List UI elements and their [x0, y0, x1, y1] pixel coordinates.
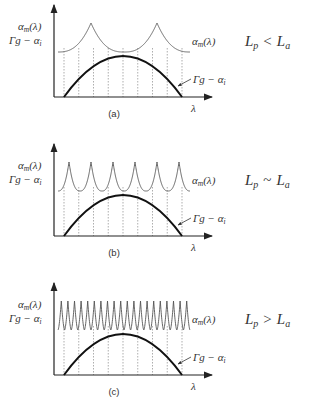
mode-loss-curve: [58, 23, 190, 52]
x-axis-label-lambda: λ: [190, 241, 196, 253]
gain-pointer-arrow: [178, 218, 191, 225]
y-axis-label-gain: Γg − αi: [8, 312, 42, 326]
gain-curve-label: Γg − αi: [192, 351, 226, 365]
panel-a: αm(λ)Γg − αiαm(λ)Γg − αiλ(a)Lp<La: [8, 5, 290, 119]
length-condition: Lp<La: [244, 33, 290, 51]
panel-caption: (c): [108, 386, 119, 397]
panel-b: αm(λ)Γg − αiαm(λ)Γg − αiλ(b)Lp~La: [8, 144, 290, 258]
mode-loss-curve: [58, 162, 190, 191]
gain-pointer-arrow: [178, 357, 191, 364]
mode-loss-label: αm(λ): [192, 313, 216, 327]
x-axis-label-lambda: λ: [190, 380, 196, 392]
mode-loss-curve: [58, 301, 190, 330]
length-condition: Lp>La: [244, 311, 290, 329]
panel-c: αm(λ)Γg − αiαm(λ)Γg − αiλ(c)Lp>La: [8, 283, 290, 397]
y-axis-label-alpha-m: αm(λ): [18, 20, 42, 34]
y-axis-label-alpha-m: αm(λ): [18, 298, 42, 312]
x-axis-label-lambda: λ: [190, 102, 196, 114]
gain-curve-label: Γg − αi: [192, 73, 226, 87]
y-axis-label-gain: Γg − αi: [8, 173, 42, 187]
diagram-canvas: αm(λ)Γg − αiαm(λ)Γg − αiλ(a)Lp<La αm(λ)Γ…: [0, 0, 311, 411]
length-condition: Lp~La: [244, 172, 290, 190]
mode-loss-label: αm(λ): [192, 35, 216, 49]
y-axis-label-alpha-m: αm(λ): [18, 159, 42, 173]
y-axis-label-gain: Γg − αi: [8, 34, 42, 48]
gain-curve-label: Γg − αi: [192, 212, 226, 226]
mode-loss-label: αm(λ): [192, 174, 216, 188]
panel-caption: (a): [108, 108, 120, 119]
gain-pointer-arrow: [178, 79, 191, 86]
panel-caption: (b): [108, 247, 120, 258]
